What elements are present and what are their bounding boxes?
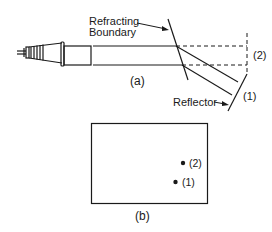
part-b-caption: (b) bbox=[135, 209, 150, 223]
point-2-label: (2) bbox=[189, 157, 202, 169]
incident-beam bbox=[93, 46, 182, 65]
point-1-label: (1) bbox=[182, 176, 195, 188]
point-1-marker bbox=[173, 180, 177, 184]
path-1-label: (1) bbox=[243, 90, 256, 102]
refracting-boundary-label-line2: Boundary bbox=[89, 26, 137, 38]
part-a-caption: (a) bbox=[130, 74, 145, 88]
refracting-boundary-arrow bbox=[137, 23, 169, 31]
diagram-canvas: Refracting Boundary (a) Reflector (2) (1… bbox=[0, 0, 272, 232]
path-2-label: (2) bbox=[253, 49, 266, 61]
instrument-telescope bbox=[17, 42, 91, 66]
refracting-boundary-line bbox=[168, 19, 188, 80]
reflector-label: Reflector bbox=[173, 96, 217, 108]
point-2-marker bbox=[181, 161, 185, 165]
